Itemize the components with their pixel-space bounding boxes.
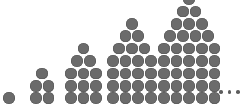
- dot-row: [107, 18, 157, 30]
- dot: [158, 68, 170, 80]
- dot-row: [158, 30, 220, 42]
- dot: [196, 68, 208, 80]
- dot-row: [30, 80, 54, 92]
- dot-pattern-figure: Five growing arrangements of gray dots f…: [0, 0, 245, 110]
- dot: [120, 68, 132, 80]
- dot: [132, 68, 144, 80]
- dot: [183, 43, 195, 55]
- dot: [120, 92, 132, 104]
- dot-row: [65, 43, 102, 55]
- dot: [120, 55, 132, 67]
- dot-row: [158, 55, 220, 67]
- dot: [158, 43, 170, 55]
- dot: [132, 92, 144, 104]
- dot-row: [107, 68, 157, 80]
- dot: [171, 68, 183, 80]
- dot-group-2: [30, 68, 54, 104]
- dot: [177, 30, 189, 42]
- ellipsis-dot: [219, 90, 223, 94]
- dot: [209, 43, 221, 55]
- dot: [196, 80, 208, 92]
- dot: [30, 80, 42, 92]
- dot: [145, 92, 157, 104]
- dot: [158, 80, 170, 92]
- dot: [84, 55, 96, 67]
- dot-row: [65, 92, 102, 104]
- dot: [126, 43, 138, 55]
- dot: [209, 68, 221, 80]
- dot-row: [158, 80, 220, 92]
- dot-row: [30, 92, 54, 104]
- dot: [171, 92, 183, 104]
- dot-row: [107, 43, 157, 55]
- dot: [78, 43, 90, 55]
- dot: [183, 92, 195, 104]
- dot: [171, 43, 183, 55]
- ellipsis-indicator: [219, 90, 240, 94]
- dot: [209, 55, 221, 67]
- dot: [3, 92, 15, 104]
- ellipsis-dot: [236, 90, 240, 94]
- dot-group-4: [107, 18, 157, 104]
- dot: [107, 92, 119, 104]
- dot: [132, 30, 144, 42]
- dot: [65, 80, 77, 92]
- dot: [158, 55, 170, 67]
- dot-row: [158, 68, 220, 80]
- ellipsis-dot: [228, 90, 232, 94]
- dot-row: [107, 55, 157, 67]
- dot-row: [65, 80, 102, 92]
- dot-row: [107, 30, 157, 42]
- dot: [90, 80, 102, 92]
- dot: [196, 43, 208, 55]
- dot: [107, 68, 119, 80]
- dot-row: [158, 0, 220, 5]
- dot-row: [107, 80, 157, 92]
- dot: [43, 80, 55, 92]
- dot: [43, 92, 55, 104]
- dot: [145, 55, 157, 67]
- dot: [196, 92, 208, 104]
- dot-row: [107, 92, 157, 104]
- dot: [65, 92, 77, 104]
- dot-group-3: [65, 43, 102, 104]
- dot-row: [30, 68, 54, 80]
- dot: [183, 80, 195, 92]
- dot: [145, 68, 157, 80]
- dot-group-1: [3, 92, 15, 104]
- dot: [145, 80, 157, 92]
- dot-row: [158, 6, 220, 18]
- dot: [164, 30, 176, 42]
- dot-row: [158, 43, 220, 55]
- dot-group-5: [158, 0, 220, 104]
- dot: [183, 18, 195, 30]
- dot: [36, 68, 48, 80]
- dot: [190, 6, 202, 18]
- dot: [183, 0, 195, 5]
- dot: [132, 55, 144, 67]
- dot: [107, 80, 119, 92]
- dot: [139, 43, 151, 55]
- dot: [171, 55, 183, 67]
- dot: [120, 30, 132, 42]
- dot: [171, 18, 183, 30]
- dot-row: [158, 18, 220, 30]
- dot: [209, 92, 221, 104]
- dot: [71, 55, 83, 67]
- dot: [90, 68, 102, 80]
- dot: [78, 92, 90, 104]
- dot-row: [65, 55, 102, 67]
- dot: [126, 18, 138, 30]
- dot: [202, 30, 214, 42]
- dot: [113, 43, 125, 55]
- dot-row: [158, 92, 220, 104]
- dot: [183, 55, 195, 67]
- figure-canvas: [0, 0, 245, 110]
- dot: [120, 80, 132, 92]
- dot-row: [3, 92, 15, 104]
- dot: [171, 80, 183, 92]
- dot: [132, 80, 144, 92]
- dot: [65, 68, 77, 80]
- dot: [30, 92, 42, 104]
- dot: [190, 30, 202, 42]
